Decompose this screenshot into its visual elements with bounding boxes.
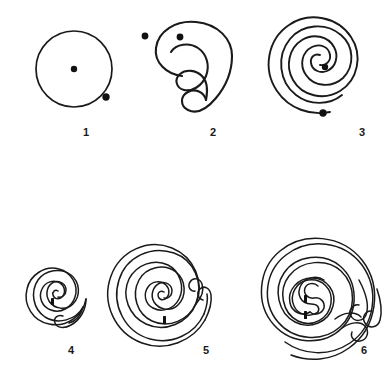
figure-6-label: 6 [352,344,376,356]
diagram-page: 1 2 3 [0,0,392,382]
figure-2-outer-spiral [156,22,232,112]
figure-4-label: 4 [59,344,83,356]
figure-6-center-tick-upper [304,295,307,303]
figure-2-center-dot [177,34,184,41]
figure-1-label: 1 [74,126,98,138]
figure-6-opening-lower-outer [342,323,367,341]
figure-5-center-tick [163,316,166,324]
figure-5-opening-lower [189,279,203,304]
figure-3-center-dot [322,64,328,70]
figure-4 [14,246,110,338]
figure-2-left-dot [142,33,149,40]
figure-4-center-tick [51,298,54,305]
figure-5-opening-upper-inner [204,294,207,314]
figure-4-spiral-paths [26,268,86,327]
figure-6-spiral-paths [261,238,381,359]
figure-5-label: 5 [194,344,218,356]
figure-2 [128,0,268,140]
figure-3-lower-dot [319,109,326,116]
figure-6-center-tick-lower [304,311,307,319]
figure-5-spiral-paths [108,245,211,347]
figure-5-opening-upper [198,287,211,320]
figure-2-graphic [128,0,268,140]
figure-2-label: 2 [201,126,225,138]
figure-3-label: 3 [350,126,374,138]
figure-1-center-dot [71,66,77,72]
figure-1-outer-dot [102,93,109,100]
figure-4-graphic [14,246,110,338]
figure-6-center-s-curve [305,284,325,315]
